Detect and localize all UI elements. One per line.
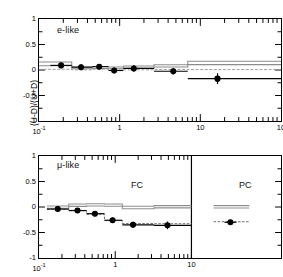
- data-point: [154, 222, 191, 230]
- plot-graphics-e-like: [39, 19, 281, 121]
- plot-graphics-mu-like: [39, 156, 281, 258]
- plot-area-e-like: [39, 19, 281, 121]
- y-tick-label-top-m0p5: -0.5: [23, 92, 36, 100]
- data-point: [47, 206, 69, 212]
- data-series-e-like: [50, 63, 281, 84]
- y-tick-label-top-0: 0: [32, 66, 36, 74]
- x-tick-label-bot-1: 1: [113, 261, 117, 269]
- panel-mu-like: μ-like FC PC 1 0.5 0 -0.5 -1 10-1 1 10: [38, 155, 282, 259]
- x-tick-exponent: -1: [41, 262, 46, 268]
- data-point-pc: [224, 220, 236, 225]
- x-tick-label-top-0: 10-1: [32, 124, 45, 136]
- x-tick-label-bot-2: 10: [187, 261, 195, 269]
- y-tick-label-bot-0: 0: [32, 203, 36, 211]
- x-tick-label-bot-0: 10-1: [32, 261, 45, 273]
- data-series-mu-like: [47, 206, 236, 229]
- data-point: [122, 222, 154, 228]
- y-tick-label-bot-1: 1: [32, 152, 36, 160]
- y-tick-label-bot-0p5: 0.5: [26, 178, 36, 186]
- plot-area-mu-like: [39, 156, 281, 258]
- data-point: [104, 217, 122, 222]
- mc-best-fit-band-e-like: [39, 69, 281, 70]
- x-tick-label-top-3: 10: [277, 124, 283, 132]
- data-point: [69, 208, 87, 213]
- y-tick-label-bot-m0p5: -0.5: [23, 229, 36, 237]
- data-point: [50, 63, 71, 69]
- y-tick-label-top-0p5: 0.5: [26, 41, 36, 49]
- axis-ticks-bot: [39, 156, 281, 258]
- figure-root: (U-D)/(U+D) e-like 1 0.5 0 -0.5 -1 10-1 …: [0, 0, 283, 277]
- x-tick-label-top-1: 1: [118, 124, 122, 132]
- data-point: [188, 73, 281, 84]
- panel-e-like: e-like 1 0.5 0 -0.5 -1 10-1 1 10 10: [38, 18, 282, 122]
- x-tick-exponent: -1: [41, 125, 46, 131]
- data-point: [87, 211, 105, 216]
- y-tick-label-top-1: 1: [32, 15, 36, 23]
- x-tick-label-top-2: 10: [196, 124, 204, 132]
